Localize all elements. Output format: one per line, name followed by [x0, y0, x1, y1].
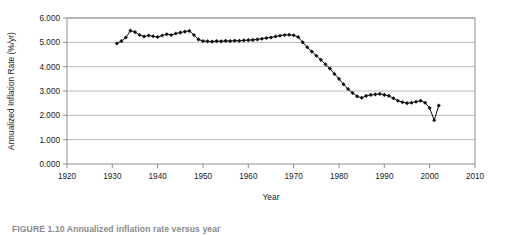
y-tick-label: 5.000	[40, 38, 61, 47]
y-tick-label: 3.000	[40, 87, 61, 96]
y-tick-label: 4.000	[40, 63, 61, 72]
x-tick-label: 1940	[149, 172, 168, 181]
data-point-marker	[219, 39, 223, 43]
data-point-marker	[405, 101, 409, 105]
data-point-marker	[269, 35, 273, 39]
figure-container: 0.0001.0002.0003.0004.0005.0006.000 1920…	[0, 0, 508, 235]
data-point-marker	[169, 33, 173, 37]
data-point-marker	[278, 34, 282, 38]
data-point-marker	[437, 104, 441, 108]
data-point-marker	[400, 100, 404, 104]
data-point-marker	[432, 118, 436, 122]
data-point-marker	[165, 32, 169, 36]
y-axis-tick-labels: 0.0001.0002.0003.0004.0005.0006.000	[40, 14, 61, 169]
data-point-marker	[378, 92, 382, 96]
data-point-marker	[205, 39, 209, 43]
data-point-marker	[242, 38, 246, 42]
data-point-marker	[283, 33, 287, 37]
data-point-marker	[183, 30, 187, 34]
data-series-line	[117, 31, 439, 121]
data-point-marker	[260, 37, 264, 41]
data-point-marker	[419, 99, 423, 103]
data-point-marker	[287, 33, 291, 37]
data-point-marker	[387, 94, 391, 98]
data-point-marker	[156, 35, 160, 39]
data-point-marker	[246, 38, 250, 42]
x-tick-label: 2000	[421, 172, 440, 181]
data-point-marker	[147, 33, 151, 37]
x-tick-label: 1950	[194, 172, 213, 181]
x-tick-label: 1920	[58, 172, 77, 181]
data-point-marker	[255, 37, 259, 41]
data-point-marker	[369, 93, 373, 97]
data-point-marker	[273, 34, 277, 38]
data-point-marker	[251, 38, 255, 42]
data-point-marker	[292, 33, 296, 37]
x-axis-title-text: Year	[263, 192, 280, 200]
data-point-marker	[264, 36, 268, 40]
x-axis-title: Year	[263, 192, 280, 200]
data-point-marker	[151, 34, 155, 38]
x-axis-tick-labels: 1920193019401950196019701980199020002010	[58, 172, 485, 181]
series-polyline	[117, 31, 439, 121]
y-tick-label: 0.000	[40, 160, 61, 169]
data-point-marker	[396, 99, 400, 103]
y-tick-label: 1.000	[40, 136, 61, 145]
y-tick-label: 2.000	[40, 111, 61, 120]
data-point-marker	[210, 40, 214, 44]
x-tick-label: 1980	[330, 172, 349, 181]
data-point-marker	[382, 93, 386, 97]
figure-caption: FIGURE 1.10 Annualized inflation rate ve…	[12, 224, 492, 234]
y-axis-ticks	[63, 18, 67, 164]
x-tick-label: 1960	[239, 172, 258, 181]
chart-svg: 0.0001.0002.0003.0004.0005.0006.000 1920…	[0, 0, 508, 200]
data-point-marker	[142, 34, 146, 38]
data-point-marker	[178, 31, 182, 35]
data-point-marker	[409, 101, 413, 105]
inflation-rate-chart: 0.0001.0002.0003.0004.0005.0006.000 1920…	[0, 0, 508, 200]
y-tick-label: 6.000	[40, 14, 61, 23]
data-point-marker	[414, 100, 418, 104]
data-point-marker	[364, 94, 368, 98]
data-point-marker	[360, 96, 364, 100]
y-axis-title-text: Annualized Inflation Rate (%/yr)	[6, 32, 16, 150]
x-tick-label: 1930	[103, 172, 122, 181]
x-axis-ticks	[67, 164, 475, 168]
data-point-marker	[391, 96, 395, 100]
data-point-marker	[160, 33, 164, 37]
x-tick-label: 1990	[375, 172, 394, 181]
x-tick-label: 1970	[285, 172, 304, 181]
data-point-marker	[373, 92, 377, 96]
data-point-marker	[174, 32, 178, 36]
y-axis-title: Annualized Inflation Rate (%/yr)	[6, 32, 16, 150]
x-tick-label: 2010	[466, 172, 485, 181]
